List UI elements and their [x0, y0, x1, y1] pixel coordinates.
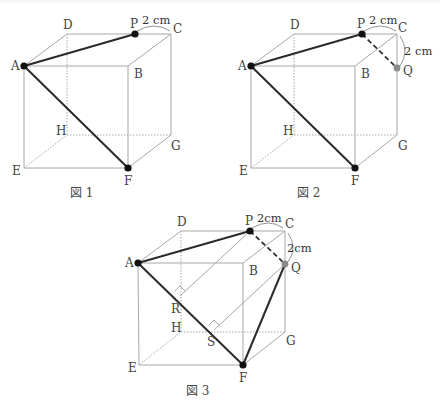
dimension-CQ: 2 cm — [404, 44, 432, 58]
label-B: B — [249, 264, 258, 278]
figure-2: A D P 2 cm C 2 cm Q B H G E F 図 2 — [237, 13, 432, 200]
figure-3-caption: 図 3 — [186, 384, 209, 398]
label-C: C — [398, 21, 407, 35]
label-B: B — [361, 67, 370, 81]
dimension-CQ: 2cm — [287, 241, 312, 255]
label-E: E — [239, 164, 248, 178]
figure-1-caption: 図 1 — [70, 186, 93, 200]
label-E: E — [12, 164, 21, 178]
label-H: H — [171, 321, 181, 335]
label-G: G — [286, 334, 296, 348]
point-A — [20, 62, 27, 69]
label-P: P — [357, 17, 365, 31]
edge-BC — [243, 231, 285, 263]
segment-QF — [243, 264, 285, 365]
point-P — [358, 30, 365, 37]
segment-AF — [24, 66, 128, 168]
segment-PQ — [250, 231, 285, 264]
point-Q — [282, 261, 289, 268]
label-D: D — [290, 18, 300, 32]
label-F: F — [351, 174, 359, 188]
segment-AP — [24, 34, 135, 66]
cube-diagrams: A D P 2 cm C B H G E F 図 1 A D P 2 cm C — [0, 0, 440, 410]
label-A: A — [10, 59, 20, 73]
label-F: F — [124, 174, 132, 188]
edge-BC — [128, 34, 171, 66]
edge-BC — [355, 34, 397, 66]
hidden-edge-EH — [251, 135, 294, 168]
point-A — [247, 62, 254, 69]
dimension-PC: 2cm — [257, 211, 282, 225]
figure-1: A D P 2 cm C B H G E F 図 1 — [10, 13, 182, 200]
point-F — [239, 361, 246, 368]
label-D: D — [177, 215, 187, 229]
edge-AD — [251, 34, 294, 66]
right-angle-mark-S — [209, 320, 219, 325]
segment-AF — [138, 263, 243, 365]
dimension-PC: 2 cm — [142, 13, 170, 27]
point-P — [246, 227, 253, 234]
point-Q — [394, 65, 401, 72]
hidden-edge-EH — [24, 135, 67, 168]
edge-FG — [355, 135, 397, 168]
edge-FG — [128, 135, 171, 168]
segment-AF — [251, 66, 355, 168]
figure-3: A D P 2cm C 2cm Q B R H S G E F 図 3 — [124, 211, 312, 398]
edge-AD — [138, 231, 181, 263]
label-R: R — [171, 302, 181, 316]
segment-AP — [251, 34, 362, 66]
segment-PQ — [362, 34, 397, 68]
label-D: D — [63, 18, 73, 32]
point-F — [351, 164, 358, 171]
label-G: G — [171, 139, 181, 153]
point-A — [134, 259, 141, 266]
hidden-edge-EH — [139, 332, 181, 365]
label-H: H — [56, 124, 66, 138]
label-Q: Q — [291, 261, 301, 275]
label-H: H — [283, 124, 293, 138]
edge-AD — [24, 34, 67, 66]
label-E: E — [128, 361, 137, 375]
label-P: P — [245, 214, 253, 228]
point-P — [131, 30, 138, 37]
label-S: S — [207, 335, 215, 349]
label-Q: Q — [403, 64, 413, 78]
label-P: P — [130, 17, 138, 31]
label-F: F — [239, 371, 247, 385]
label-B: B — [134, 67, 143, 81]
label-A: A — [237, 59, 247, 73]
point-F — [124, 164, 131, 171]
figure-2-caption: 図 2 — [297, 186, 320, 200]
right-angle-mark-R — [175, 286, 185, 291]
label-G: G — [398, 139, 408, 153]
label-A: A — [124, 256, 134, 270]
label-C: C — [173, 22, 182, 36]
dimension-PC: 2 cm — [369, 13, 397, 27]
label-C: C — [285, 217, 294, 231]
